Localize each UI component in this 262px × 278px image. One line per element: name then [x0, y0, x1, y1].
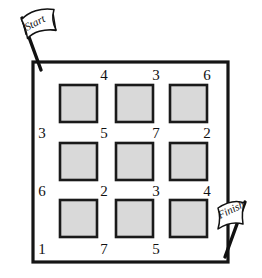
- puzzle-figure: Start Finish 4 3 6 3 5 7 2 6 2 3 4 1 7 5: [0, 0, 262, 278]
- tile-r3c3[interactable]: [170, 200, 207, 237]
- edge-number-mid1-1: 3: [33, 126, 51, 141]
- edge-number-mid2-1: 6: [33, 184, 51, 199]
- tile-r1c3[interactable]: [170, 85, 207, 122]
- edge-number-mid2-3: 3: [147, 184, 165, 199]
- tile-r3c1[interactable]: [60, 200, 97, 237]
- tile-r2c2[interactable]: [116, 143, 153, 180]
- tile-r3c2[interactable]: [116, 200, 153, 237]
- finish-flag: Finish: [215, 197, 247, 257]
- edge-number-bottom-2: 7: [95, 242, 113, 257]
- tile-r2c3[interactable]: [170, 143, 207, 180]
- edge-number-top-3: 6: [198, 68, 216, 83]
- tile-r1c2[interactable]: [116, 85, 153, 122]
- edge-number-mid1-2: 5: [95, 126, 113, 141]
- edge-number-top-1: 4: [95, 68, 113, 83]
- edge-number-bottom-3: 5: [147, 242, 165, 257]
- edge-number-mid1-3: 7: [147, 126, 165, 141]
- edge-number-mid2-4: 4: [198, 184, 216, 199]
- tile-r1c1[interactable]: [60, 85, 97, 122]
- tile-grid: [60, 85, 207, 237]
- edge-number-mid1-4: 2: [198, 126, 216, 141]
- edge-number-top-2: 3: [147, 68, 165, 83]
- edge-number-mid2-2: 2: [95, 184, 113, 199]
- edge-number-bottom-1: 1: [33, 242, 51, 257]
- tile-r2c1[interactable]: [60, 143, 97, 180]
